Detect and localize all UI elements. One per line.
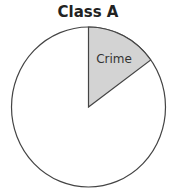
slice-label-crime: Crime: [96, 52, 132, 66]
pie-chart: Crime: [0, 0, 176, 196]
